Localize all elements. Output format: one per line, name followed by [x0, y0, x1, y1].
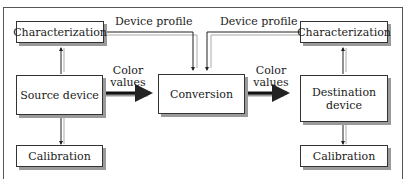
device-profile-label-left: Device profile: [115, 16, 193, 28]
color-left-line2: values: [108, 77, 148, 89]
color-right-line2: values: [251, 77, 291, 89]
destination-label-line1: Destination: [312, 86, 376, 99]
destination-device-box: Destination device: [300, 75, 388, 122]
conversion-box: Conversion: [158, 74, 245, 114]
characterization-box-right: Characterization: [300, 21, 388, 43]
destination-label-line2: device: [326, 99, 362, 112]
calibration-left-label: Calibration: [28, 150, 91, 163]
color-values-label-left: Color values: [108, 65, 148, 89]
source-device-label: Source device: [20, 89, 99, 102]
device-profile-label-right: Device profile: [220, 16, 298, 28]
calibration-box-right: Calibration: [300, 145, 388, 167]
conversion-label: Conversion: [170, 88, 233, 101]
source-device-box: Source device: [16, 75, 103, 115]
characterization-right-label: Characterization: [297, 26, 391, 39]
characterization-left-label: Characterization: [13, 26, 107, 39]
color-values-label-right: Color values: [251, 65, 291, 89]
characterization-box-left: Characterization: [16, 21, 104, 43]
calibration-box-left: Calibration: [16, 145, 103, 167]
calibration-right-label: Calibration: [313, 150, 376, 163]
